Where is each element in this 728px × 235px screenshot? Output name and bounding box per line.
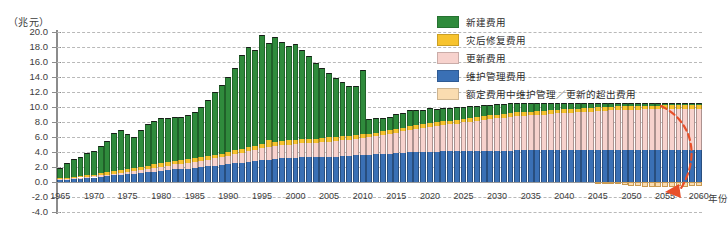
legend-item[interactable]: 灾后修复费用 (437, 31, 636, 49)
bar-segment (649, 109, 655, 150)
bar-segment (427, 123, 433, 127)
bar-segment (608, 103, 614, 107)
bar-segment (434, 152, 440, 182)
bar-segment (555, 103, 561, 110)
bar-segment (319, 68, 325, 138)
bar-segment (246, 151, 252, 162)
bar-segment (427, 152, 433, 182)
legend-item[interactable]: 维护管理费用 (437, 67, 636, 85)
bar-segment (561, 103, 567, 110)
legend-item[interactable]: 新建费用 (437, 13, 636, 31)
legend-label: 更新费用 (466, 51, 506, 65)
y-tick-label: 16.0 (0, 56, 48, 67)
bar-2004 (319, 32, 325, 212)
bar-segment (447, 151, 453, 182)
bar-2005 (326, 32, 332, 212)
bar-segment (380, 118, 386, 132)
bar-segment (514, 150, 520, 182)
bar-1985 (192, 32, 198, 212)
bar-segment (487, 105, 493, 116)
bar-segment (575, 103, 581, 109)
bar-segment (366, 134, 372, 138)
bar-segment (635, 106, 641, 110)
bar-segment (508, 103, 514, 113)
bar-segment (427, 127, 433, 152)
bar-segment (581, 103, 587, 109)
bar-segment (64, 163, 70, 177)
bar-segment (474, 151, 480, 182)
bar-segment (185, 159, 191, 163)
bar-segment (420, 128, 426, 152)
bar-segment (57, 179, 63, 182)
legend-swatch-renewal (437, 52, 459, 64)
bar-segment (266, 160, 272, 183)
x-tick-label: 1980 (147, 191, 175, 201)
bar-segment (333, 157, 339, 183)
bar-segment (588, 150, 594, 182)
bar-segment (635, 103, 641, 106)
bar-segment (286, 46, 292, 141)
bar-segment (71, 177, 77, 179)
legend-item[interactable]: 更新费用 (437, 49, 636, 67)
bar-segment (98, 146, 104, 173)
bar-segment (138, 170, 144, 173)
bar-segment (407, 152, 413, 182)
shortfall-segment (628, 182, 634, 186)
bar-segment (575, 150, 581, 182)
bar-segment (568, 150, 574, 182)
bar-segment (225, 77, 231, 152)
bar-segment (286, 145, 292, 159)
bar-segment (628, 106, 634, 110)
bar-segment (346, 156, 352, 182)
bar-segment (440, 151, 446, 182)
bar-segment (346, 86, 352, 136)
bar-segment (387, 130, 393, 134)
y-tick-label: 10.0 (0, 101, 48, 112)
bar-segment (622, 110, 628, 150)
bar-segment (649, 103, 655, 106)
bar-segment (205, 166, 211, 182)
bar-1978 (145, 32, 151, 212)
bar-2052 (642, 32, 648, 212)
legend-item[interactable]: 额定费用中维护管理／更新的超出费用 (437, 85, 636, 103)
bar-segment (501, 104, 507, 114)
bar-segment (602, 150, 608, 182)
bar-segment (628, 150, 634, 182)
bar-segment (252, 150, 258, 161)
bar-segment (622, 150, 628, 182)
x-tick-label: 2040 (550, 191, 578, 201)
x-axis-title: 年份 (708, 191, 728, 205)
bar-segment (178, 169, 184, 182)
bar-segment (635, 110, 641, 150)
bar-segment (326, 157, 332, 183)
bar-segment (205, 156, 211, 160)
x-tick-label: 1970 (80, 191, 108, 201)
bar-segment (219, 154, 225, 158)
bar-segment (387, 117, 393, 131)
bar-1987 (205, 32, 211, 212)
bar-segment (259, 160, 265, 182)
bar-1997 (272, 32, 278, 212)
bar-segment (400, 131, 406, 152)
bar-segment (353, 135, 359, 139)
bar-2002 (306, 32, 312, 212)
bar-segment (494, 118, 500, 150)
bar-segment (185, 169, 191, 183)
bar-segment (595, 103, 601, 108)
bar-segment (313, 63, 319, 139)
bar-segment (131, 171, 137, 174)
bar-segment (219, 157, 225, 165)
bar-segment (78, 176, 84, 177)
bar-segment (259, 35, 265, 144)
bar-segment (548, 150, 554, 182)
x-tick-label: 2025 (449, 191, 477, 201)
bar-segment (407, 126, 413, 130)
bar-1986 (198, 32, 204, 212)
bar-1995 (259, 32, 265, 212)
legend-label: 额定费用中维护管理／更新的超出费用 (466, 87, 636, 101)
bar-segment (198, 107, 204, 157)
bar-segment (400, 153, 406, 182)
bar-segment (219, 85, 225, 154)
bar-segment (111, 174, 117, 176)
bar-segment (131, 137, 137, 169)
